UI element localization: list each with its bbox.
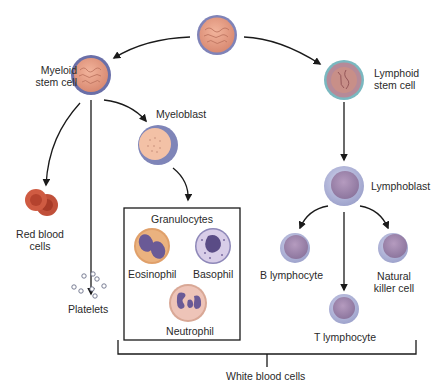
label-white-blood-cells: White blood cells	[226, 370, 305, 382]
label-platelets: Platelets	[68, 303, 108, 315]
label-t-lymphocyte: T lymphocyte	[310, 331, 380, 343]
label-lymphoblast: Lymphoblast	[371, 180, 430, 192]
label-basophil: Basophil	[193, 268, 233, 280]
basophil	[195, 228, 231, 264]
t-lymphocyte	[329, 294, 359, 324]
label-myeloid-stem-cell: Myeloid stem cell	[27, 64, 77, 88]
lymphoblast	[324, 166, 364, 206]
label-granulocytes: Granulocytes	[124, 213, 240, 225]
hematopoietic-stem-cell	[197, 15, 237, 55]
natural-killer-cell	[378, 233, 408, 263]
hematopoiesis-diagram	[0, 0, 443, 386]
label-lymphoid-stem-cell: Lymphoid stem cell	[374, 67, 419, 91]
myeloid-stem-cell	[71, 55, 111, 95]
white-blood-cells-bracket	[118, 340, 416, 367]
red-blood-cells	[25, 189, 58, 216]
lymphoid-stem-cell	[324, 60, 364, 100]
myeloblast	[138, 125, 178, 165]
label-eosinophil: Eosinophil	[128, 268, 176, 280]
label-natural-killer-cell: Natural killer cell	[367, 270, 421, 294]
neutrophil	[169, 284, 207, 322]
label-myeloblast: Myeloblast	[156, 108, 206, 120]
platelets	[72, 272, 106, 298]
label-red-blood-cells: Red blood cells	[12, 228, 68, 252]
label-neutrophil: Neutrophil	[160, 325, 220, 337]
label-b-lymphocyte: B lymphocyte	[260, 269, 323, 281]
eosinophil	[134, 228, 170, 264]
b-lymphocyte	[280, 233, 310, 263]
